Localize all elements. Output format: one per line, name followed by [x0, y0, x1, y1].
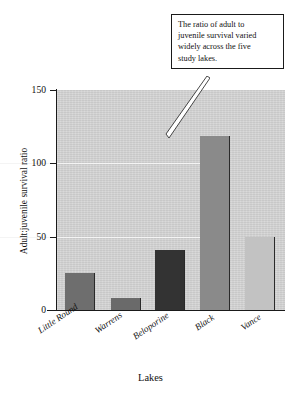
x-label-black: Black [193, 312, 216, 332]
callout-line-2: juvenile survival varied [178, 30, 278, 41]
x-axis-title: Lakes [0, 372, 301, 383]
y-tick-150 [50, 90, 56, 91]
bar-beloporine[interactable] [155, 250, 185, 310]
bar-black[interactable] [200, 136, 230, 311]
y-tick-label-0: 0 [6, 304, 46, 315]
y-tick-label-150: 150 [6, 84, 46, 95]
y-axis-title: Adult:juvenile survival ratio [19, 111, 29, 291]
bar-vance[interactable] [245, 237, 275, 310]
y-tick-100 [50, 163, 56, 164]
callout-annotation: The ratio of adult to juvenile survival … [171, 14, 284, 69]
callout-line-1: The ratio of adult to [178, 19, 278, 30]
y-tick-0 [50, 310, 56, 311]
y-tick-50 [50, 237, 56, 238]
y-axis-line [56, 89, 57, 311]
bar-chart-figure: 150 100 50 0 Adult:juvenile survival rat… [0, 0, 301, 401]
callout-line-3: widely across the five [178, 41, 278, 52]
x-label-vance: Vance [239, 312, 263, 333]
callout-line-4: study lakes. [178, 53, 278, 64]
bar-warrens[interactable] [111, 298, 141, 310]
x-label-beloporine: Beloporine [131, 310, 170, 341]
x-label-warrens: Warrens [93, 310, 124, 335]
callout-leader-line [160, 76, 210, 138]
